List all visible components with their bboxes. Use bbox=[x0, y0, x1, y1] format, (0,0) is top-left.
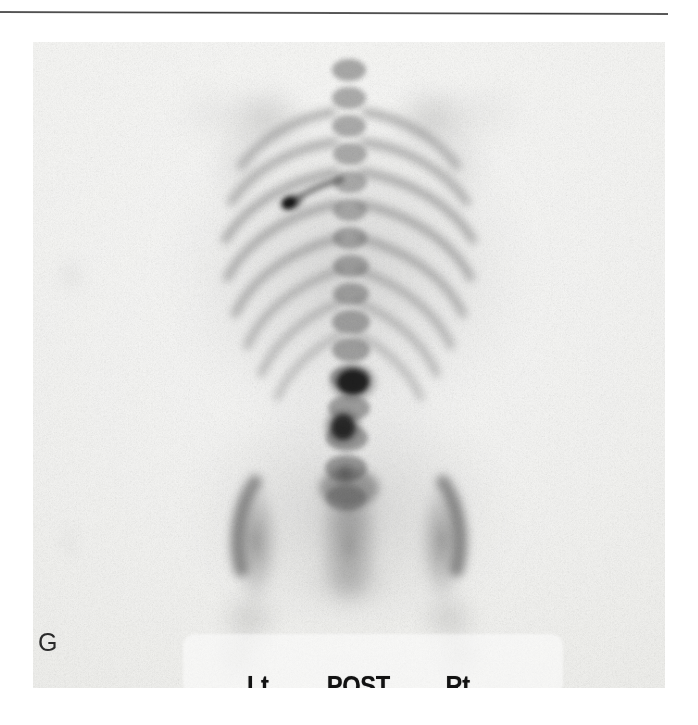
lower-sacrum-coccyx bbox=[305, 552, 393, 612]
film-artifacts bbox=[53, 254, 89, 562]
orientation-caption: Lt. POST. Rt. bbox=[247, 668, 476, 688]
bone-scan-figure: Lt. POST. Rt. bbox=[33, 42, 665, 688]
figure-divider-rule bbox=[0, 11, 668, 15]
right-side-marker: Rt. bbox=[445, 671, 475, 689]
scintigram-plate: Lt. POST. Rt. bbox=[33, 42, 665, 688]
left-side-marker: Lt. bbox=[247, 671, 275, 689]
projection-marker: POST. bbox=[327, 671, 393, 689]
skeleton-uptake-layer bbox=[33, 42, 665, 688]
panel-letter-label: G bbox=[38, 628, 57, 657]
